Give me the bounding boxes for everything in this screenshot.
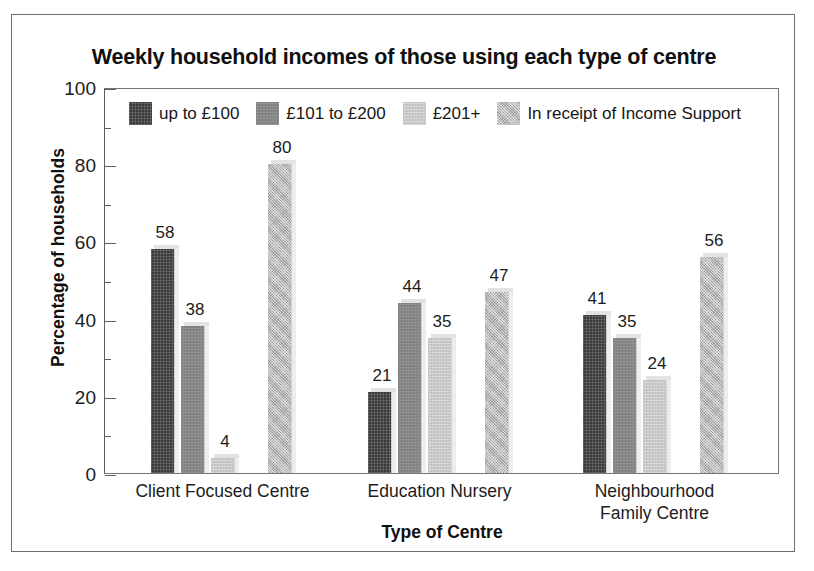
bar-top-face (154, 245, 179, 249)
y-tick-label-0: 0 (85, 464, 96, 486)
bar-group-2: 41352456 (583, 89, 730, 473)
bar-body (428, 338, 452, 473)
y-tick-label-100: 100 (64, 78, 96, 100)
bar-top-face (214, 454, 239, 458)
bar-2-3[interactable]: 56 (700, 257, 728, 473)
bar-value-label-2-2: 24 (637, 354, 677, 374)
bar-side-face (234, 458, 239, 473)
bar-value-label-2-1: 35 (607, 312, 647, 332)
y-tick-label-40: 40 (75, 310, 96, 332)
y-tick-major-0 (105, 475, 116, 476)
bar-body (268, 164, 292, 473)
bar-body (643, 380, 667, 473)
bar-value-label-1-1: 44 (392, 277, 432, 297)
bar-top-face (371, 388, 396, 392)
bar-value-label-0-0: 58 (145, 223, 185, 243)
bar-body (398, 303, 422, 473)
bar-1-3[interactable]: 47 (485, 292, 513, 473)
bar-value-label-0-1: 38 (175, 300, 215, 320)
bar-body (151, 249, 175, 473)
category-label-line: Education Nursery (330, 480, 550, 502)
bar-side-face (723, 257, 728, 473)
bar-body (485, 292, 509, 473)
bar-value-label-1-3: 47 (479, 266, 519, 286)
bar-group-1: 21443547 (368, 89, 515, 473)
bar-1-0[interactable]: 21 (368, 392, 396, 473)
category-label-0: Client Focused Centre (113, 480, 333, 502)
bar-top-face (646, 376, 671, 380)
x-axis-title: Type of Centre (104, 522, 780, 543)
bars-layer: 58384802144354741352456 (105, 89, 778, 473)
bar-side-face (508, 292, 513, 473)
bar-value-label-1-0: 21 (362, 366, 402, 386)
category-label-1: Education Nursery (330, 480, 550, 502)
bar-value-label-2-3: 56 (694, 231, 734, 251)
plot-area: 020406080100 up to £100£101 to £200£201+… (104, 88, 779, 474)
y-axis-title: Percentage of households (48, 148, 69, 368)
bar-top-face (616, 334, 641, 338)
bar-value-label-0-3: 80 (262, 138, 302, 158)
bar-top-face (401, 299, 426, 303)
y-tick-label-60: 60 (75, 232, 96, 254)
bar-side-face (391, 392, 396, 473)
chart-title: Weekly household incomes of those using … (12, 45, 796, 70)
bar-side-face (174, 249, 179, 473)
x-axis-category-labels: Client Focused CentreEducation NurseryNe… (104, 480, 779, 528)
bar-body (181, 326, 205, 473)
bar-1-2[interactable]: 35 (428, 338, 456, 473)
y-tick-label-20: 20 (75, 387, 96, 409)
bar-side-face (666, 380, 671, 473)
bar-0-0[interactable]: 58 (151, 249, 179, 473)
bar-2-2[interactable]: 24 (643, 380, 671, 473)
bar-value-label-1-2: 35 (422, 312, 462, 332)
bar-value-label-0-2: 4 (205, 432, 245, 452)
bar-0-2[interactable]: 4 (211, 458, 239, 473)
bar-group-0: 5838480 (151, 89, 298, 473)
bar-body (613, 338, 637, 473)
bar-top-face (488, 288, 513, 292)
bar-top-face (703, 253, 728, 257)
bar-body (211, 458, 235, 473)
bar-side-face (606, 315, 611, 473)
bar-top-face (184, 322, 209, 326)
bar-body (583, 315, 607, 473)
bar-0-3[interactable]: 80 (268, 164, 296, 473)
bar-top-face (271, 160, 296, 164)
bar-side-face (291, 164, 296, 473)
category-label-line: Neighbourhood (545, 480, 765, 502)
category-label-2: NeighbourhoodFamily Centre (545, 480, 765, 525)
bar-side-face (451, 338, 456, 473)
y-tick-label-80: 80 (75, 155, 96, 177)
bar-top-face (431, 334, 456, 338)
figure-frame: Weekly household incomes of those using … (11, 14, 795, 552)
bar-value-label-2-0: 41 (577, 289, 617, 309)
bar-body (700, 257, 724, 473)
category-label-line: Client Focused Centre (113, 480, 333, 502)
bar-body (368, 392, 392, 473)
bar-2-0[interactable]: 41 (583, 315, 611, 473)
